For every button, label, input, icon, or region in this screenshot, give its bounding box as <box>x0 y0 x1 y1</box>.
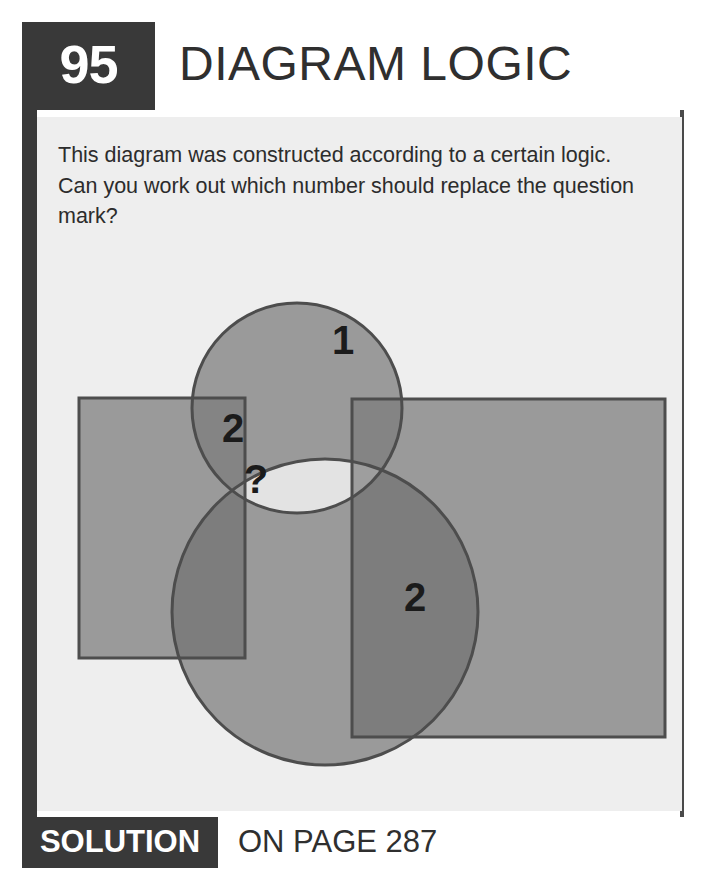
page-title: DIAGRAM LOGIC <box>179 40 572 93</box>
page-footer: SOLUTION ON PAGE 287 <box>22 817 684 868</box>
diagram-label-bottomcircle-rightrect: 2 <box>404 575 426 619</box>
puzzle-question-text: This diagram was constructed according t… <box>58 140 638 232</box>
solution-page-reference: ON PAGE 287 <box>238 826 437 860</box>
diagram-label-question-mark: ? <box>244 457 268 501</box>
solution-label-block: SOLUTION <box>22 817 218 868</box>
page-header: 95 DIAGRAM LOGIC <box>22 22 684 110</box>
diagram-label-topcircle-leftrect: 2 <box>222 406 244 450</box>
puzzle-content-panel: This diagram was constructed according t… <box>37 117 682 811</box>
solution-label: SOLUTION <box>40 826 200 860</box>
logic-diagram: 1 2 ? 2 <box>37 259 682 811</box>
puzzle-number-block: 95 <box>22 22 155 110</box>
diagram-label-top-circle: 1 <box>332 318 354 362</box>
puzzle-title-block: DIAGRAM LOGIC <box>155 22 684 110</box>
solution-page-block: ON PAGE 287 <box>218 817 684 868</box>
page-frame-left-bar <box>22 22 37 868</box>
puzzle-page: 95 DIAGRAM LOGIC This diagram was constr… <box>0 0 707 896</box>
diagram-svg: 1 2 ? 2 <box>37 259 682 811</box>
puzzle-number: 95 <box>59 37 117 95</box>
